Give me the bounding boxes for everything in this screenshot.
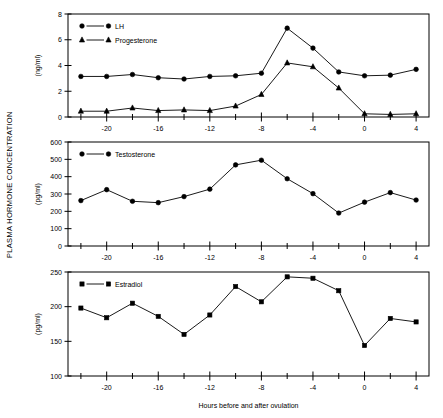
data-point-circle (182, 194, 187, 199)
y-axis-main-label: PLASMA HORMONE CONCENTRATION (5, 111, 14, 258)
data-point-circle (233, 74, 238, 79)
x-tick-label: -4 (310, 254, 316, 261)
data-point-triangle (79, 37, 84, 42)
y-tick-label: 200 (50, 303, 62, 310)
data-point-circle (414, 198, 419, 203)
data-point-square (362, 343, 366, 347)
y-tick-label: 200 (50, 208, 62, 215)
data-point-circle (336, 211, 341, 216)
x-tick-label: -20 (102, 384, 112, 391)
data-point-circle (106, 152, 111, 157)
data-point-square (414, 320, 418, 324)
x-tick-label: 0 (363, 254, 367, 261)
legend-item-testosterone: Testosterone (80, 151, 155, 158)
legend-item-progesterone: Progesterone (79, 37, 157, 45)
x-tick-label: -12 (205, 384, 215, 391)
y-tick-label: 250 (50, 269, 62, 276)
data-point-square (80, 282, 84, 286)
y-axis-unit-label: (ng/ml) (34, 55, 42, 77)
x-tick-label: -20 (102, 254, 112, 261)
legend-label: Estradiol (115, 281, 143, 288)
x-tick-label: -16 (153, 125, 163, 132)
y-tick-label: 2 (58, 88, 62, 95)
x-tick-label: -12 (205, 125, 215, 132)
x-axis-label: Hours before and after ovulation (198, 402, 298, 409)
x-tick-label: 4 (414, 384, 418, 391)
y-axis-unit-label: (pg/ml) (34, 313, 42, 335)
data-point-circle (130, 199, 135, 204)
data-point-square (106, 282, 110, 286)
x-tick-label: -16 (153, 384, 163, 391)
panel-middle: 0100200300400500600-20-16-12-8-404(pg/ml… (34, 139, 429, 261)
data-point-square (156, 314, 160, 318)
y-tick-label: 100 (50, 225, 62, 232)
series-line-testosterone (81, 160, 416, 213)
x-tick-label: -8 (258, 125, 264, 132)
x-tick-label: 4 (414, 254, 418, 261)
data-point-circle (233, 163, 238, 168)
y-tick-label: 0 (58, 114, 62, 121)
data-point-triangle (130, 105, 135, 110)
y-axis-unit-label: (pg/ml) (34, 183, 42, 205)
x-tick-label: -4 (310, 384, 316, 391)
x-tick-label: -16 (153, 254, 163, 261)
y-tick-label: 100 (50, 373, 62, 380)
data-point-circle (106, 24, 111, 29)
y-tick-label: 4 (58, 62, 62, 69)
data-point-triangle (78, 108, 83, 113)
data-point-circle (80, 24, 85, 29)
data-point-circle (336, 70, 341, 75)
y-tick-label: 400 (50, 173, 62, 180)
y-tick-label: 6 (58, 36, 62, 43)
data-point-circle (285, 26, 290, 31)
data-point-circle (311, 191, 316, 196)
data-point-circle (208, 187, 213, 192)
y-tick-label: 500 (50, 156, 62, 163)
panel-bottom: 100150200250-20-16-12-8-404(pg/ml)Estrad… (34, 269, 429, 409)
legend-label: Testosterone (115, 151, 155, 158)
data-point-square (208, 313, 212, 317)
data-point-circle (362, 200, 367, 205)
data-point-square (259, 300, 263, 304)
x-tick-label: -8 (258, 384, 264, 391)
data-point-square (79, 306, 83, 310)
data-point-triangle (336, 85, 341, 90)
panel-top: 02468-20-16-12-8-404(ng/ml)LHProgesteron… (34, 11, 429, 132)
x-tick-label: 0 (363, 125, 367, 132)
data-point-circle (130, 72, 135, 77)
legend-label: Progesterone (115, 37, 157, 45)
data-point-circle (182, 77, 187, 82)
data-point-square (105, 316, 109, 320)
y-tick-label: 8 (58, 11, 62, 18)
x-tick-label: 4 (414, 125, 418, 132)
data-point-square (182, 332, 186, 336)
data-point-triangle (285, 60, 290, 65)
y-tick-label: 600 (50, 139, 62, 146)
data-point-circle (156, 200, 161, 205)
data-point-circle (388, 73, 393, 78)
y-tick-label: 300 (50, 191, 62, 198)
data-point-circle (208, 74, 213, 79)
x-tick-label: -8 (258, 254, 264, 261)
data-point-circle (259, 71, 264, 76)
x-tick-label: -12 (205, 254, 215, 261)
x-tick-label: -20 (102, 125, 112, 132)
data-point-circle (79, 198, 84, 203)
data-point-circle (388, 190, 393, 195)
data-point-triangle (181, 107, 186, 112)
data-point-square (130, 301, 134, 305)
data-point-square (285, 275, 289, 279)
data-point-circle (156, 75, 161, 80)
data-point-circle (362, 74, 367, 79)
y-tick-label: 0 (58, 243, 62, 250)
y-tick-label: 150 (50, 338, 62, 345)
series-line-progesterone (81, 63, 416, 115)
legend-item-estradiol: Estradiol (80, 281, 143, 288)
data-point-circle (259, 158, 264, 163)
data-point-circle (104, 74, 109, 79)
x-tick-label: 0 (363, 384, 367, 391)
x-tick-label: -4 (310, 125, 316, 132)
data-point-circle (104, 187, 109, 192)
data-point-circle (80, 152, 85, 157)
data-point-triangle (106, 37, 111, 42)
